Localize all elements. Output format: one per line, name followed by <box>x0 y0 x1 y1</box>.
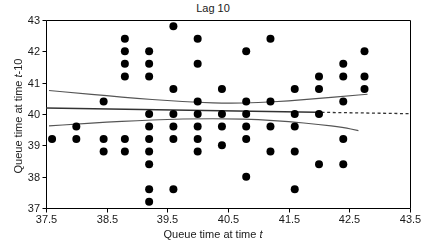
y-axis-label-text: Queue time at time <box>12 77 24 173</box>
x-axis-label-variable: t <box>259 228 262 240</box>
y-axis-label-suffix: -10 <box>12 59 24 75</box>
x-axis-label-text: Queue time at time <box>163 228 259 240</box>
x-axis-label: Queue time at time t <box>0 228 426 240</box>
chart-plot-area <box>0 0 426 247</box>
y-axis-label: Queue time at time t-10 <box>12 16 24 216</box>
y-axis-label-variable: t <box>12 74 24 77</box>
scatter-plot-figure: Lag 10 Queue time at time t Queue time a… <box>0 0 426 247</box>
